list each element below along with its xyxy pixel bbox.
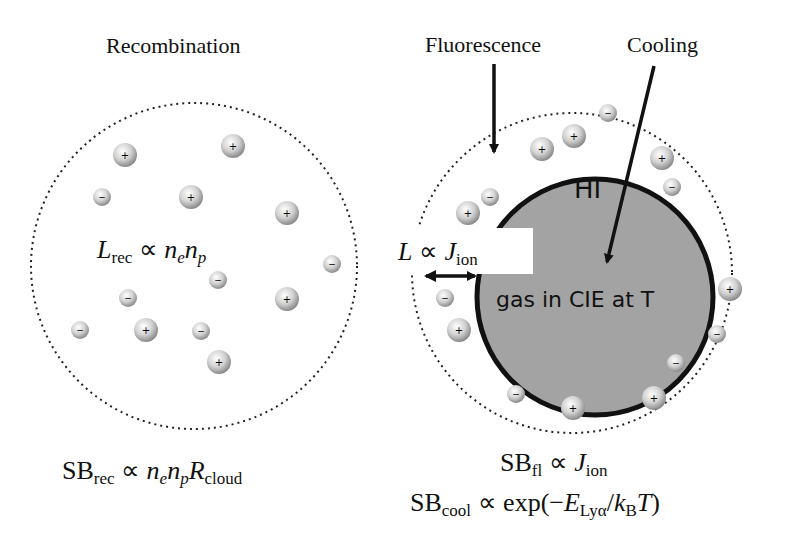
svg-text:−: − — [604, 108, 612, 118]
eq-symbol: E — [564, 488, 580, 517]
eq-relation: ∝ — [478, 488, 497, 517]
electron-particle: − — [323, 255, 341, 273]
recombination-surface-brightness-equation: SBrec ∝ nenpRcloud — [62, 455, 242, 486]
svg-text:−: − — [486, 192, 494, 202]
proton-particle: + — [718, 277, 742, 301]
eq-subscript: Lyα — [580, 501, 607, 520]
proton-particle: + — [650, 146, 674, 170]
svg-text:+: + — [187, 192, 195, 203]
svg-text:−: − — [197, 326, 205, 336]
eq-subscript: e — [160, 469, 168, 488]
recombination-title: Recombination — [106, 33, 240, 59]
svg-text:+: + — [650, 393, 658, 404]
electron-particle: − — [192, 322, 210, 340]
svg-text:+: + — [142, 325, 150, 336]
eq-relation: ∝ — [549, 448, 568, 477]
svg-text:−: − — [76, 325, 84, 335]
proton-particle: + — [207, 350, 231, 374]
eq-subscript: fl — [532, 461, 542, 480]
eq-operator: ) — [651, 488, 660, 517]
eq-subscript: rec — [94, 469, 115, 488]
eq-symbol: n — [185, 235, 198, 264]
proton-particle: + — [221, 134, 245, 158]
proton-particle: + — [562, 124, 586, 148]
electron-particle: − — [93, 188, 111, 206]
eq-symbol: n — [147, 456, 160, 485]
eq-function: exp(− — [503, 488, 564, 517]
svg-text:+: + — [569, 403, 577, 414]
eq-subscript: ion — [586, 461, 608, 480]
svg-text:−: − — [713, 329, 721, 339]
electron-particle: − — [663, 178, 681, 196]
svg-text:−: − — [328, 259, 336, 269]
svg-text:−: − — [668, 182, 676, 192]
proton-particle: + — [134, 318, 158, 342]
svg-text:+: + — [283, 294, 291, 305]
proton-particle: + — [561, 396, 585, 420]
svg-text:+: + — [726, 284, 734, 295]
eq-subscript: p — [180, 469, 189, 488]
svg-text:+: + — [229, 141, 237, 152]
proton-particle: + — [275, 287, 299, 311]
cie-gas-label: gas in CIE at T — [496, 287, 654, 312]
svg-text:+: + — [283, 208, 291, 219]
electron-particle: − — [708, 325, 726, 343]
eq-subscript: ion — [456, 250, 478, 269]
svg-text:+: + — [658, 153, 666, 164]
eq-subscript: cool — [442, 501, 471, 520]
shell-luminosity-equation: L ∝ Jion — [398, 236, 478, 267]
eq-symbol: n — [167, 456, 180, 485]
proton-particle: + — [456, 201, 480, 225]
cooling-surface-brightness-equation: SBcool ∝ exp(−ELyα/kBT) — [410, 487, 660, 518]
eq-symbol: T — [637, 488, 651, 517]
eq-symbol: J — [574, 448, 586, 477]
eq-symbol: L — [398, 237, 412, 266]
svg-text:+: + — [570, 131, 578, 142]
eq-symbol: k — [614, 488, 626, 517]
eq-subscript: B — [626, 501, 637, 520]
electron-particle: − — [667, 354, 685, 372]
eq-relation: ∝ — [139, 235, 158, 264]
svg-text:−: − — [98, 192, 106, 202]
eq-symbol: J — [444, 237, 456, 266]
recombination-luminosity-equation: Lrec ∝ nenp — [97, 234, 206, 265]
cooling-label: Cooling — [627, 32, 698, 58]
svg-text:−: − — [214, 275, 222, 285]
svg-text:−: − — [124, 293, 132, 303]
recombination-cloud-boundary — [31, 103, 357, 429]
hi-core-label: HI — [574, 174, 601, 204]
svg-text:+: + — [121, 150, 129, 161]
electron-particle: − — [119, 289, 137, 307]
eq-operator: / — [607, 488, 614, 517]
svg-text:−: − — [512, 389, 520, 399]
electron-particle: − — [481, 188, 499, 206]
electron-particle: − — [71, 321, 89, 339]
eq-symbol: L — [97, 235, 111, 264]
svg-text:−: − — [441, 293, 449, 303]
electron-particle: − — [436, 289, 454, 307]
svg-text:+: + — [464, 208, 472, 219]
eq-subscript: e — [177, 248, 185, 267]
proton-particle: + — [447, 318, 471, 342]
proton-particle: + — [179, 185, 203, 209]
eq-symbol: SB — [500, 448, 532, 477]
proton-particle: + — [113, 143, 137, 167]
fluorescence-label: Fluorescence — [425, 32, 541, 58]
proton-particle: + — [642, 386, 666, 410]
eq-symbol: SB — [62, 456, 94, 485]
svg-text:+: + — [538, 144, 546, 155]
electron-particle: − — [599, 104, 617, 122]
svg-text:+: + — [455, 325, 463, 336]
eq-subscript: rec — [111, 248, 132, 267]
eq-relation: ∝ — [121, 456, 140, 485]
proton-particle: + — [275, 201, 299, 225]
electron-particle: − — [209, 271, 227, 289]
proton-particle: + — [530, 137, 554, 161]
eq-relation: ∝ — [419, 237, 438, 266]
eq-symbol: n — [164, 235, 177, 264]
fluorescence-surface-brightness-equation: SBfl ∝ Jion — [500, 447, 607, 478]
eq-symbol: SB — [410, 488, 442, 517]
eq-subscript: cloud — [205, 469, 243, 488]
eq-subscript: p — [198, 248, 207, 267]
electron-particle: − — [507, 385, 525, 403]
